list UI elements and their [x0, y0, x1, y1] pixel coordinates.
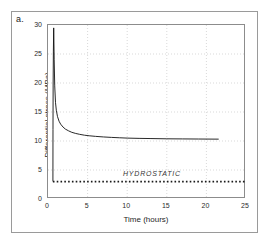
- y-tick-label-15: 15: [26, 108, 42, 115]
- x-tick-label-25: 25: [235, 202, 255, 209]
- panel-label: a.: [16, 15, 24, 24]
- y-tick-label-10: 10: [26, 137, 42, 144]
- plot-area: HYDROSTATIC: [47, 24, 245, 198]
- x-axis-title: Time (hours): [47, 216, 245, 224]
- y-tick-label-30: 30: [26, 21, 42, 28]
- y-tick-label-25: 25: [26, 50, 42, 57]
- y-tick-label-0: 0: [26, 195, 42, 202]
- figure-root: a. 30 25 20 15 10 5 0 0 5 10 15 20 25 Ti…: [0, 0, 270, 245]
- y-tick-label-20: 20: [26, 79, 42, 86]
- x-tick-label-10: 10: [116, 202, 136, 209]
- x-tick-label-20: 20: [195, 202, 215, 209]
- x-tick-label-15: 15: [156, 202, 176, 209]
- x-tick-label-5: 5: [77, 202, 97, 209]
- x-tick-label-0: 0: [37, 202, 57, 209]
- hydrostatic-annotation: HYDROSTATIC: [123, 170, 181, 177]
- stress-curve: [53, 28, 218, 181]
- y-tick-label-5: 5: [26, 166, 42, 173]
